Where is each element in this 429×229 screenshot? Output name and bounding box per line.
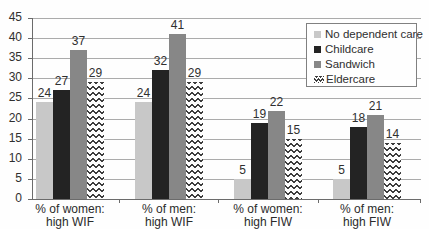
y-axis-tick xyxy=(28,119,32,120)
y-axis-tick xyxy=(28,58,32,59)
bar-value-label: 41 xyxy=(171,19,184,32)
y-axis-label: 10 xyxy=(0,151,22,166)
bar-slot-no-dependent-care: 24 xyxy=(135,18,152,199)
bar-slot-sandwich: 22 xyxy=(268,18,285,199)
x-axis-tick xyxy=(119,200,120,203)
y-axis-label: 0 xyxy=(0,191,22,206)
x-axis-tick xyxy=(318,200,319,203)
bar-value-label: 29 xyxy=(89,67,102,80)
y-axis-label: 20 xyxy=(0,111,22,126)
bar-value-label: 24 xyxy=(137,87,150,100)
bar-value-label: 18 xyxy=(352,112,365,125)
y-axis-label: 30 xyxy=(0,70,22,85)
bar-value-label: 19 xyxy=(253,108,266,121)
bar-value-label: 5 xyxy=(338,164,345,177)
legend-item: Childcare xyxy=(314,42,416,57)
bar-sandwich xyxy=(367,115,384,199)
legend-item: No dependent care xyxy=(314,27,416,42)
bar-sandwich xyxy=(268,111,285,199)
bar-childcare xyxy=(53,90,70,199)
bar-no-dependent-care xyxy=(234,179,251,199)
bar-no-dependent-care xyxy=(135,102,152,199)
bar-value-label: 24 xyxy=(38,87,51,100)
x-category-line2: high WIF xyxy=(21,216,119,229)
y-axis-label: 40 xyxy=(0,30,22,45)
x-axis-category-label: % of women:high FIW xyxy=(219,203,317,229)
bar-childcare xyxy=(251,123,268,199)
bar-slot-eldercare: 29 xyxy=(87,18,104,199)
bar-value-label: 21 xyxy=(369,100,382,113)
x-axis-tick xyxy=(420,200,421,203)
legend-swatch-childcare xyxy=(314,46,321,53)
x-category-line2: high WIF xyxy=(120,216,218,229)
y-axis-label: 5 xyxy=(0,171,22,186)
y-axis-tick xyxy=(28,159,32,160)
x-axis-tick xyxy=(218,200,219,203)
y-axis-tick xyxy=(28,18,32,19)
bar-slot-childcare: 32 xyxy=(152,18,169,199)
y-axis-tick xyxy=(28,78,32,79)
bar-slot-eldercare: 29 xyxy=(186,18,203,199)
bar-slot-childcare: 19 xyxy=(251,18,268,199)
y-axis-tick xyxy=(28,199,32,200)
bar-childcare xyxy=(152,70,169,199)
y-axis-label: 35 xyxy=(0,50,22,65)
y-axis-tick xyxy=(28,38,32,39)
y-axis-tick xyxy=(28,179,32,180)
bar-childcare xyxy=(350,127,367,199)
bar-group: 5192215 xyxy=(234,18,302,199)
x-axis-category-label: % of men:high FIW xyxy=(318,203,416,229)
bar-slot-no-dependent-care: 24 xyxy=(36,18,53,199)
legend-label: Sandwich xyxy=(325,57,375,72)
bar-no-dependent-care xyxy=(36,102,53,199)
x-axis-category-label: % of men:high WIF xyxy=(120,203,218,229)
bar-value-label: 29 xyxy=(188,67,201,80)
bar-sandwich xyxy=(169,34,186,199)
legend-swatch-eldercare xyxy=(314,76,324,83)
bar-value-label: 27 xyxy=(55,75,68,88)
bar-value-label: 14 xyxy=(386,128,399,141)
legend-label: Eldercare xyxy=(326,72,375,87)
bar-value-label: 22 xyxy=(270,96,283,109)
bar-eldercare xyxy=(186,82,203,199)
bar-slot-childcare: 27 xyxy=(53,18,70,199)
bar-group: 24324129 xyxy=(135,18,203,199)
y-axis-tick xyxy=(28,98,32,99)
bar-no-dependent-care xyxy=(333,179,350,199)
legend-item: Sandwich xyxy=(314,57,416,72)
bar-slot-no-dependent-care: 5 xyxy=(234,18,251,199)
bar-sandwich xyxy=(70,50,87,199)
bar-eldercare xyxy=(87,82,104,199)
bar-slot-eldercare: 15 xyxy=(285,18,302,199)
bar-value-label: 32 xyxy=(154,55,167,68)
x-axis-category-label: % of women:high WIF xyxy=(21,203,119,229)
y-axis-label: 15 xyxy=(0,131,22,146)
x-category-line2: high FIW xyxy=(219,216,317,229)
chart-figure: 242737292432412951922155182114 051015202… xyxy=(0,0,429,229)
x-category-line2: high FIW xyxy=(318,216,416,229)
bar-group: 24273729 xyxy=(36,18,104,199)
y-axis-label: 45 xyxy=(0,10,22,25)
bar-slot-sandwich: 37 xyxy=(70,18,87,199)
bar-value-label: 37 xyxy=(72,35,85,48)
bar-value-label: 5 xyxy=(239,164,246,177)
legend-swatch-sandwich xyxy=(314,61,321,68)
legend-item: Eldercare xyxy=(314,72,416,87)
legend-swatch-no-dependent-care xyxy=(314,31,321,38)
y-axis-label: 25 xyxy=(0,90,22,105)
legend-label: Childcare xyxy=(325,42,374,57)
bar-eldercare xyxy=(384,143,401,199)
legend-label: No dependent care xyxy=(325,27,423,42)
bar-slot-sandwich: 41 xyxy=(169,18,186,199)
bar-value-label: 15 xyxy=(287,124,300,137)
legend: No dependent careChildcareSandwichElderc… xyxy=(306,23,417,87)
y-axis-tick xyxy=(28,139,32,140)
bar-eldercare xyxy=(285,139,302,199)
